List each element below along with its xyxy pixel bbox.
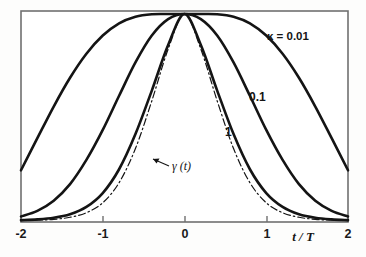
xtick-label-zero: 0 [182, 227, 189, 241]
xtick-label-minus2: -2 [15, 227, 26, 241]
xtick-label-one: 1 [264, 227, 271, 241]
plot-svg: -2 -1 0 1 2 t / T κ = 0.01 0.1 1 γ (t) [0, 0, 366, 257]
kappa-annotation: κ = 0.01 [267, 30, 310, 42]
plot-frame [21, 11, 348, 222]
xtick-label-minus1: -1 [97, 227, 108, 241]
xtick-label-two: 2 [345, 227, 352, 241]
curve-label-point-one: 0.1 [249, 90, 266, 104]
curve-label-one: 1 [225, 125, 232, 139]
gamma-of-t-label: γ (t) [172, 159, 191, 173]
x-axis-title: t / T [292, 229, 315, 244]
figure-container: -2 -1 0 1 2 t / T κ = 0.01 0.1 1 γ (t) [0, 0, 366, 257]
